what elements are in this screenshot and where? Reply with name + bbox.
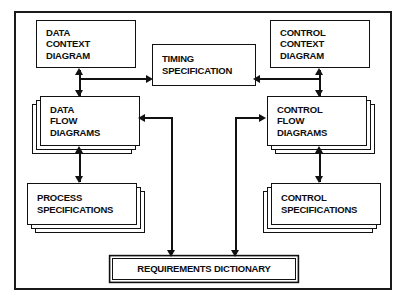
- connector-dfd-pspec-arrowhead-down: [75, 176, 83, 183]
- node-label-line: DIAGRAM: [46, 50, 135, 62]
- connector-cfd-cspec-arrowhead-up: [315, 146, 323, 153]
- node-label-line: DIAGRAMS: [50, 127, 139, 139]
- node-label-line: FLOW: [277, 115, 366, 127]
- connector-dfd-pspec-arrowhead-up: [75, 146, 83, 153]
- node-label-line: CONTROL: [277, 104, 366, 116]
- node-requirements-dictionary[interactable]: REQUIREMENTS DICTIONARY: [112, 258, 296, 280]
- node-label-line: SPECIFICATIONS: [281, 204, 380, 216]
- node-data-context-diagram[interactable]: DATA CONTEXT DIAGRAM: [36, 20, 136, 68]
- connector-right-trunk-line: [235, 117, 237, 254]
- node-label-line: DATA: [46, 27, 135, 39]
- connector-ccd-timing-line: [259, 78, 320, 80]
- node-control-flow-diagrams[interactable]: CONTROL FLOW DIAGRAMS: [267, 96, 367, 146]
- connector-dict-dfd-arrowhead: [138, 114, 145, 122]
- connector-dict-cfd-branch-line: [235, 117, 262, 119]
- diagram-canvas: DATA CONTEXT DIAGRAM TIMING SPECIFICATIO…: [0, 0, 407, 303]
- node-label-line: SPECIFICATIONS: [37, 204, 136, 216]
- connector-ccd-cfd-arrowhead-up: [315, 68, 323, 75]
- node-data-flow-diagrams[interactable]: DATA FLOW DIAGRAMS: [40, 96, 140, 146]
- connector-dict-cfd-arrowhead: [259, 114, 266, 122]
- connector-dict-dfd-branch-line: [145, 117, 173, 119]
- connector-dcd-timing-arrowhead: [146, 75, 153, 83]
- connector-dcd-timing-line: [79, 78, 149, 80]
- node-label-line: REQUIREMENTS DICTIONARY: [113, 263, 295, 275]
- connector-right-trunk-arrowhead: [231, 250, 239, 257]
- node-process-specifications[interactable]: PROCESS SPECIFICATIONS: [27, 183, 137, 225]
- node-label-line: DATA: [50, 104, 139, 116]
- connector-left-trunk-line: [171, 117, 173, 254]
- node-label-line: DIAGRAMS: [277, 127, 366, 139]
- connector-dcd-dfd-arrowhead-up: [75, 68, 83, 75]
- node-label-line: CONTROL: [280, 27, 369, 39]
- node-label-line: DIAGRAM: [280, 50, 369, 62]
- connector-left-trunk-arrowhead: [167, 250, 175, 257]
- connector-ccd-timing-arrowhead: [253, 75, 260, 83]
- node-label-line: SPECIFICATION: [162, 65, 255, 77]
- node-control-context-diagram[interactable]: CONTROL CONTEXT DIAGRAM: [270, 20, 370, 68]
- node-label-line: FLOW: [50, 115, 139, 127]
- connector-ccd-cfd-arrowhead-down: [315, 90, 323, 97]
- connector-cfd-cspec-arrowhead-down: [315, 176, 323, 183]
- node-label-line: TIMING: [162, 53, 255, 65]
- connector-dcd-dfd-arrowhead-down: [75, 90, 83, 97]
- node-label-line: CONTROL: [281, 192, 380, 204]
- node-control-specifications[interactable]: CONTROL SPECIFICATIONS: [271, 183, 381, 225]
- node-label-line: CONTEXT: [280, 38, 369, 50]
- node-timing-specification[interactable]: TIMING SPECIFICATION: [152, 44, 256, 86]
- node-label-line: PROCESS: [37, 192, 136, 204]
- node-label-line: CONTEXT: [46, 38, 135, 50]
